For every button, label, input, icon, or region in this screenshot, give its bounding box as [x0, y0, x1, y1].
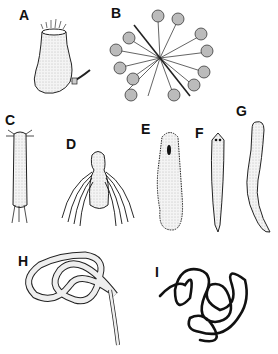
organism-i: [160, 269, 247, 341]
organism-b: [110, 10, 213, 101]
organism-g: [247, 122, 270, 233]
panel-label-a: A: [19, 8, 29, 22]
organism-h: [29, 255, 118, 345]
panel-label-i: I: [155, 265, 159, 279]
panel-label-f: F: [195, 126, 204, 140]
organism-c: [6, 130, 34, 223]
panel-label-b: B: [111, 6, 121, 20]
figure-canvas: [0, 0, 278, 354]
panel-label-d: D: [66, 137, 76, 151]
panel-label-c: C: [5, 113, 15, 127]
organism-f: [211, 133, 224, 232]
organism-a: [34, 19, 90, 93]
organism-e: [157, 133, 182, 231]
panel-label-h: H: [18, 254, 28, 268]
organism-d: [62, 152, 134, 227]
panel-label-e: E: [141, 122, 150, 136]
panel-label-g: G: [236, 104, 247, 118]
